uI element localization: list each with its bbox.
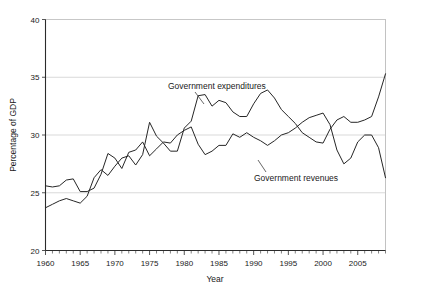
x-tick-label: 1990 [245, 259, 263, 268]
x-tick-label: 1980 [175, 259, 193, 268]
y-tick-label: 30 [31, 131, 40, 140]
y-axis-ticks: 2025303540 [31, 16, 46, 256]
y-tick-label: 25 [31, 189, 40, 198]
x-tick-label: 1995 [279, 259, 297, 268]
government-finances-line-chart: 2025303540 19601965197019751980198519901… [0, 0, 424, 300]
x-axis-title: Year [206, 274, 223, 284]
x-tick-label: 1975 [141, 259, 159, 268]
y-tick-label: 20 [31, 247, 40, 256]
chart-figure: 2025303540 19601965197019751980198519901… [0, 0, 424, 300]
x-tick-label: 1965 [71, 259, 89, 268]
x-tick-label: 1970 [106, 259, 124, 268]
annotation-government-expenditures: Government expenditures [168, 81, 266, 91]
x-tick-label: 2005 [349, 259, 367, 268]
x-tick-label: 1960 [37, 259, 55, 268]
y-axis-title: Percentage of GDP [8, 98, 18, 172]
y-tick-label: 35 [31, 73, 40, 82]
x-tick-label: 1985 [210, 259, 228, 268]
x-tick-label: 2000 [314, 259, 332, 268]
y-tick-label: 40 [31, 16, 40, 25]
annotation-government-revenues: Government revenues [254, 173, 338, 183]
x-axis-ticks: 1960196519701975198019851990199520002005 [37, 251, 368, 268]
